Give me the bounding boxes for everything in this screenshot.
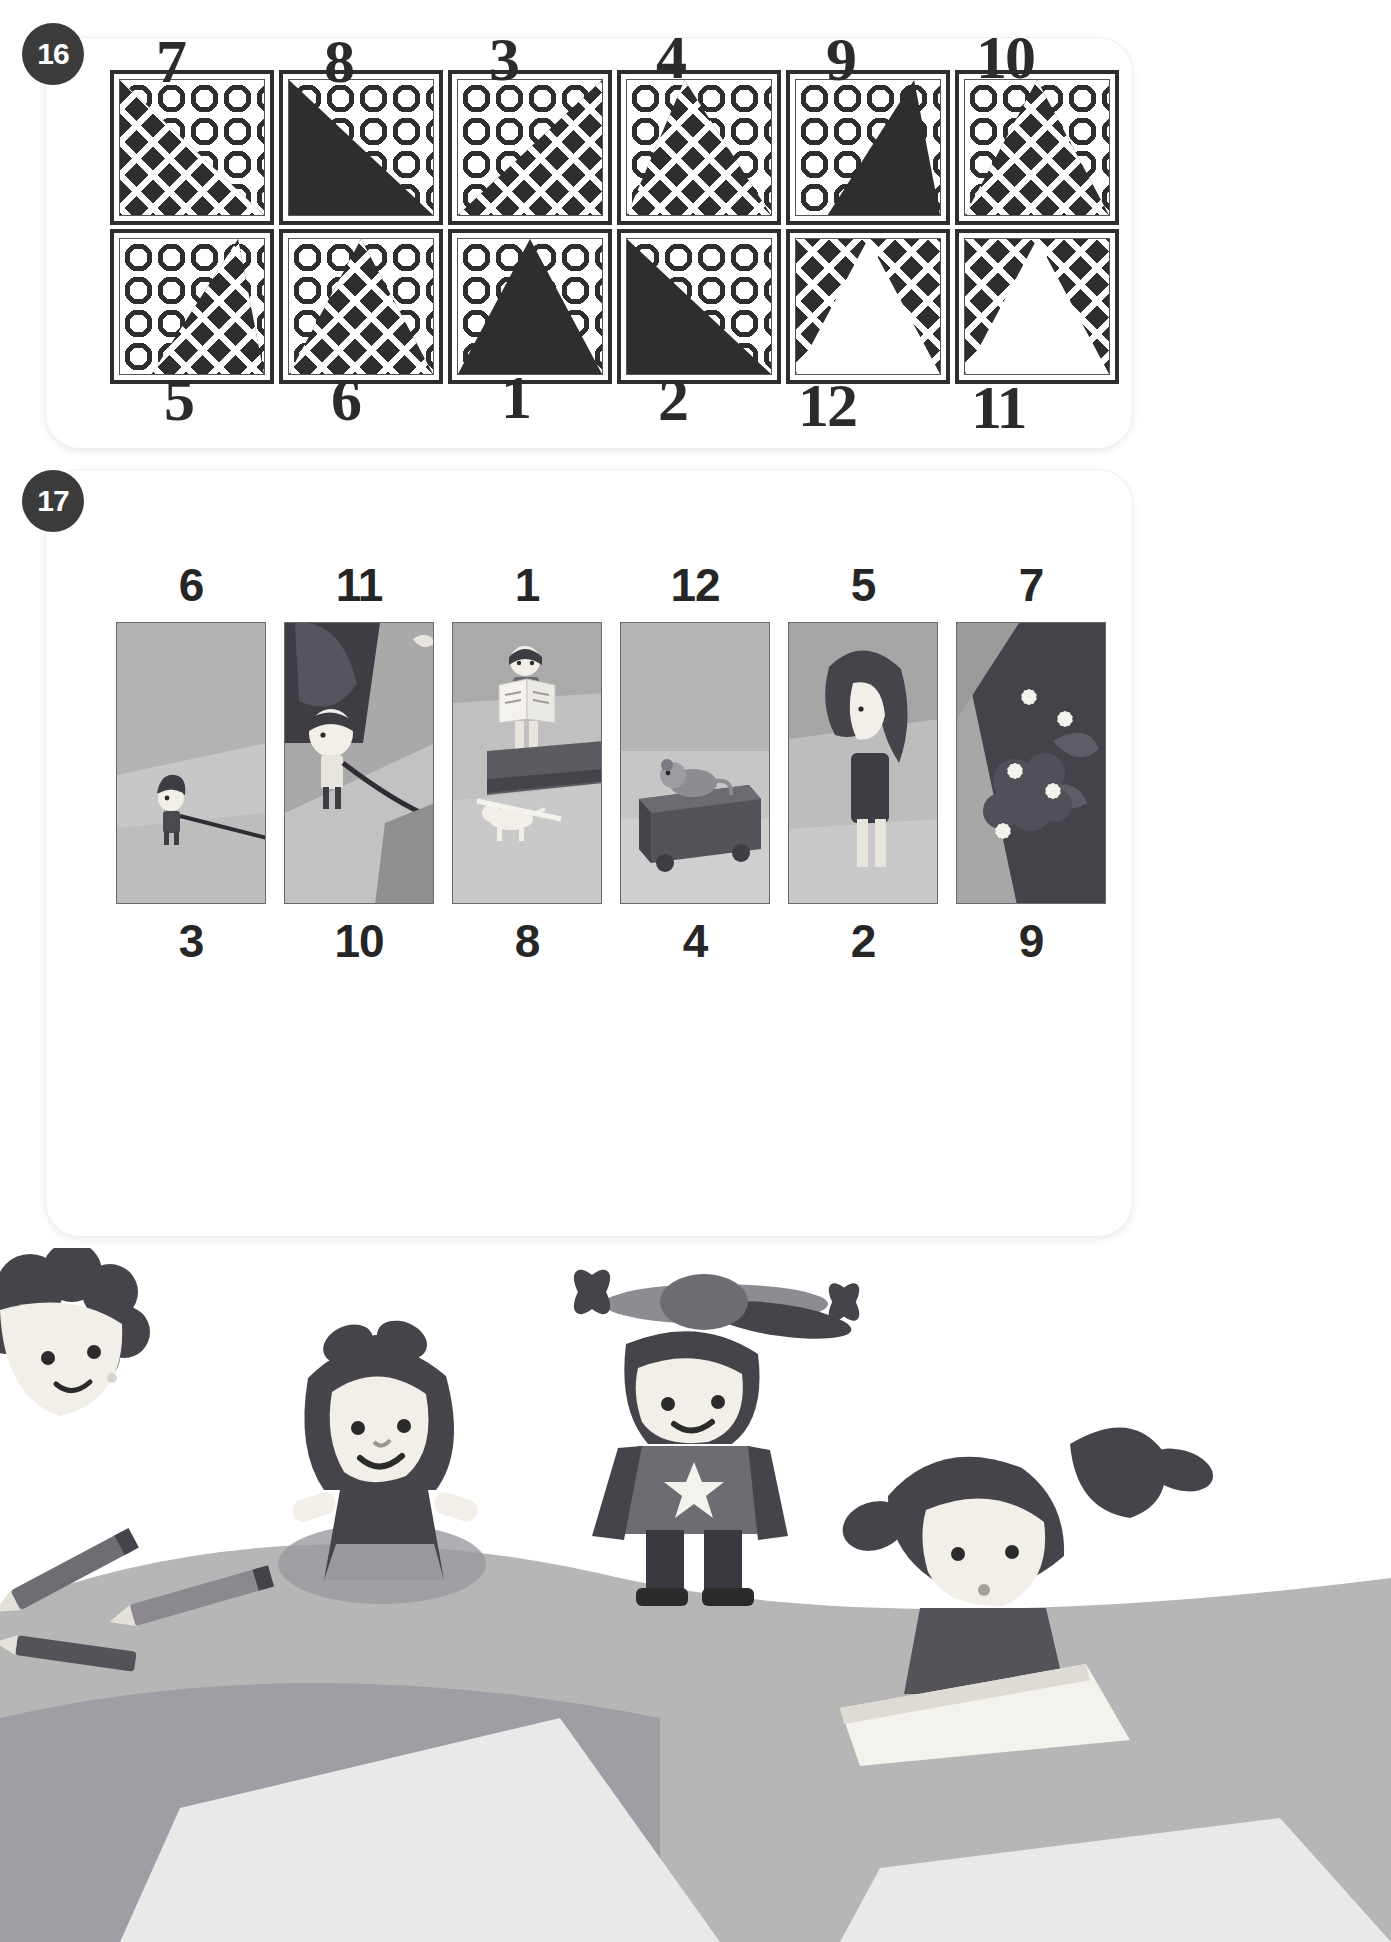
pattern-tile[interactable]	[448, 229, 612, 384]
picture-card[interactable]	[284, 622, 434, 904]
exercise-17-badge: 17	[22, 470, 84, 532]
picture-label: 12	[670, 562, 719, 608]
pattern-tile[interactable]	[955, 229, 1119, 384]
pattern-tile[interactable]	[786, 70, 950, 225]
exercise-17-picture-grid: 6 3 11	[108, 562, 1114, 964]
scene-boy-reading-on-bench	[453, 623, 602, 904]
picture-label: 2	[851, 918, 876, 964]
scene-girl-with-leash	[117, 623, 266, 904]
girl-with-bow	[278, 1314, 486, 1604]
answer-number: 11	[971, 376, 1026, 438]
exercise-17-panel: 6 3 11	[46, 470, 1132, 1236]
picture-label: 10	[334, 918, 383, 964]
answer-number: 1	[501, 366, 530, 428]
picture-column: 5 2	[780, 562, 946, 964]
pattern-tile[interactable]	[110, 229, 274, 384]
answer-number: 7	[156, 30, 185, 92]
pattern-tile[interactable]	[448, 70, 612, 225]
picture-label: 8	[515, 918, 540, 964]
decor-svg	[0, 1248, 1391, 1942]
answer-number: 12	[798, 374, 856, 436]
answer-number: 10	[976, 26, 1034, 88]
pattern-tile[interactable]	[279, 70, 443, 225]
scene-woman-with-long-hair	[789, 623, 938, 904]
picture-label: 4	[683, 918, 708, 964]
picture-card[interactable]	[620, 622, 770, 904]
picture-label: 9	[1019, 918, 1044, 964]
picture-label: 5	[851, 562, 876, 608]
answer-number: 5	[164, 368, 193, 430]
pattern-tile[interactable]	[110, 70, 274, 225]
picture-column: 12	[612, 562, 778, 964]
picture-card[interactable]	[956, 622, 1106, 904]
answer-number: 8	[324, 30, 353, 92]
picture-card[interactable]	[116, 622, 266, 904]
exercise-16-panel: 7 8 3 4 9 10 5 6 1 2 12 11	[46, 38, 1132, 448]
pattern-tile[interactable]	[786, 229, 950, 384]
answer-number: 9	[826, 28, 855, 90]
decorative-illustration-band	[0, 1248, 1391, 1942]
scene-person-walking-dog	[285, 623, 434, 904]
picture-label: 7	[1019, 562, 1044, 608]
picture-label: 6	[179, 562, 204, 608]
picture-column: 6 3	[108, 562, 274, 964]
pattern-tile[interactable]	[617, 229, 781, 384]
picture-label: 3	[179, 918, 204, 964]
pattern-tile[interactable]	[617, 70, 781, 225]
picture-column: 1	[444, 562, 610, 964]
scene-flower-bush	[957, 623, 1106, 904]
answer-number: 6	[331, 368, 360, 430]
picture-label: 1	[515, 562, 540, 608]
picture-card[interactable]	[452, 622, 602, 904]
exercise-16-tile-grid	[110, 70, 1119, 384]
picture-card[interactable]	[788, 622, 938, 904]
pattern-tile[interactable]	[279, 229, 443, 384]
scene-dog-sleeping-on-box	[621, 623, 770, 904]
exercise-16-badge: 16	[22, 23, 84, 85]
picture-label: 11	[336, 562, 383, 608]
curly-haired-boy	[0, 1248, 150, 1416]
propeller	[567, 1264, 865, 1346]
answer-number: 3	[489, 28, 518, 90]
picture-column: 7	[948, 562, 1114, 964]
answer-number: 4	[656, 26, 685, 88]
picture-column: 11 10	[276, 562, 442, 964]
pattern-tile[interactable]	[955, 70, 1119, 225]
answer-number: 2	[658, 368, 687, 430]
boy-with-propeller-hat	[567, 1264, 865, 1606]
